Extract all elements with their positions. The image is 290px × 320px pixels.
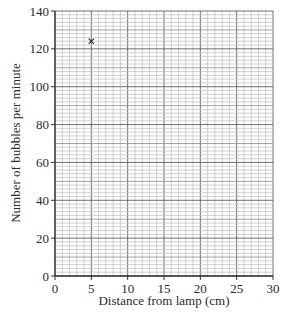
y-tick-label: 0 [43,269,50,284]
y-tick-label: 80 [36,117,49,132]
y-tick-label: 40 [36,193,49,208]
x-tick-label: 5 [88,281,95,296]
grid [55,11,273,276]
y-tick-label: 140 [30,4,50,19]
y-axis-label: Number of bubbles per minute [8,63,23,223]
tick-labels: 051015202530020406080100120140 [30,4,280,297]
chart-canvas: 051015202530020406080100120140 Distance … [0,0,290,320]
x-tick-label: 0 [52,281,59,296]
y-tick-label: 60 [36,155,49,170]
y-tick-label: 20 [36,231,49,246]
x-tick-label: 25 [230,281,243,296]
x-axis-label: Distance from lamp (cm) [98,293,229,308]
x-tick-label: 30 [267,281,280,296]
y-tick-label: 100 [30,79,50,94]
y-tick-label: 120 [30,41,50,56]
chart: 051015202530020406080100120140 Distance … [0,0,290,320]
